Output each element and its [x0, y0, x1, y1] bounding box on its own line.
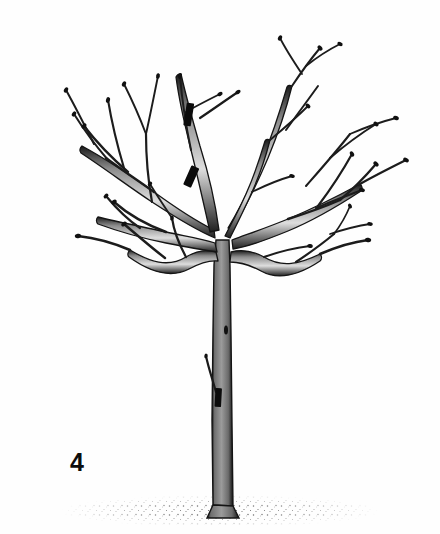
- branch-r13: [306, 44, 340, 66]
- tip-14: [364, 237, 371, 242]
- tip-8: [105, 97, 110, 104]
- tree-illustration: [0, 0, 440, 534]
- trunk-knot: [224, 326, 228, 335]
- branch-r12: [292, 48, 320, 86]
- pruning-cut-mark-trunk-sucker: [215, 388, 222, 407]
- branch-l9: [66, 90, 94, 144]
- tip-19: [393, 115, 400, 121]
- limb-right-inner: [225, 139, 270, 238]
- trunk-body: [212, 240, 233, 506]
- figure-number-label: 4: [70, 450, 84, 475]
- tip-26: [307, 244, 313, 249]
- branch-l10: [108, 100, 124, 168]
- limb-left-low: [128, 250, 218, 274]
- trunk-flare: [207, 505, 239, 518]
- trunk-bud-knot: [224, 326, 228, 335]
- tip-1: [74, 233, 81, 238]
- branch-r14: [280, 38, 302, 74]
- branch-r17: [264, 246, 310, 257]
- tip-28: [347, 203, 353, 209]
- branch-r8: [306, 134, 350, 186]
- tip-10: [156, 73, 161, 79]
- branch-r5: [340, 164, 376, 200]
- branch-l1: [78, 236, 130, 250]
- tip-25: [289, 173, 295, 178]
- branch-r6: [360, 160, 406, 184]
- branch-l13: [146, 76, 158, 134]
- tip-27: [367, 222, 373, 227]
- figure-container: 4: [0, 0, 440, 534]
- branch-r1: [320, 240, 368, 254]
- branch-l12: [124, 84, 146, 134]
